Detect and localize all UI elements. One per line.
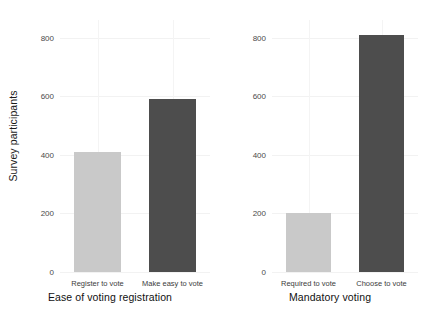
y-axis-title: Survey participants [2, 0, 24, 272]
x-axis-tick-label: Make easy to vote [142, 279, 203, 288]
plot-area-right: 0200400600800Required to voteChoose to v… [272, 20, 418, 272]
gridline-horizontal [60, 272, 210, 273]
x-axis-title-right: Mandatory voting [220, 291, 440, 303]
bar [74, 152, 121, 272]
gridline-horizontal [60, 96, 210, 97]
y-axis-tick-label: 800 [253, 33, 266, 42]
y-axis-tick-label: 200 [41, 209, 54, 218]
y-axis-title-text: Survey participants [7, 90, 19, 181]
y-axis-tick-label: 800 [41, 33, 54, 42]
bar [286, 213, 331, 272]
y-axis-tick-label: 0 [50, 268, 54, 277]
bar [359, 35, 404, 272]
chart-panel-mandatory-voting: 0200400600800Required to voteChoose to v… [220, 0, 440, 321]
plot-area-left: 0200400600800Register to voteMake easy t… [60, 20, 210, 272]
y-axis-tick-label: 0 [262, 268, 266, 277]
bar [149, 99, 196, 272]
gridline-horizontal [60, 38, 210, 39]
y-axis-tick-label: 400 [41, 150, 54, 159]
bar-chart-figure: Survey participants 0200400600800Registe… [0, 0, 440, 321]
y-axis-tick-label: 200 [253, 209, 266, 218]
x-axis-tick-label: Register to vote [71, 279, 124, 288]
x-axis-title-left: Ease of voting registration [0, 291, 220, 303]
y-axis-tick-label: 600 [41, 92, 54, 101]
x-axis-tick-label: Choose to vote [356, 279, 406, 288]
gridline-horizontal [272, 272, 418, 273]
x-axis-tick-label: Required to vote [281, 279, 336, 288]
y-axis-tick-label: 400 [253, 150, 266, 159]
chart-panel-ease-of-voting-registration: Survey participants 0200400600800Registe… [0, 0, 220, 321]
y-axis-tick-label: 600 [253, 92, 266, 101]
